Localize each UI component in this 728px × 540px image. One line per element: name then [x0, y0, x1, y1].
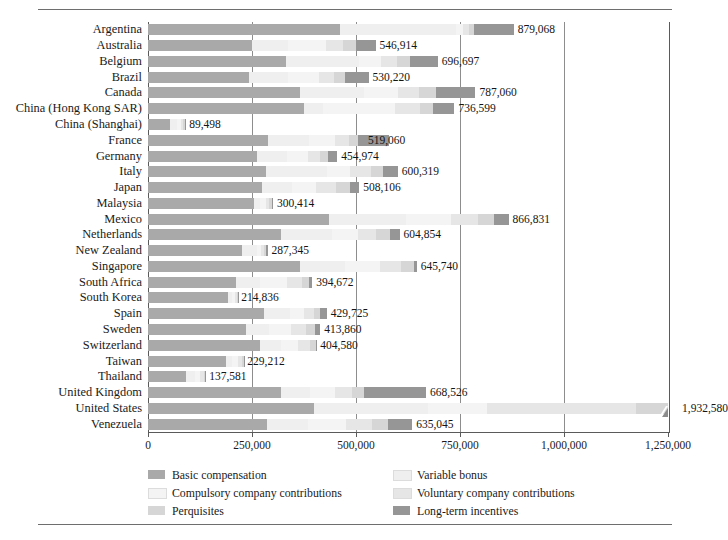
category-label: China (Hong Kong SAR): [0, 103, 142, 114]
legend-label: Perquisites: [172, 504, 224, 519]
category-label: Thailand: [0, 371, 142, 382]
bar-segment: [148, 245, 242, 256]
bar-row: Sweden413,860: [148, 324, 668, 335]
bar-row: United States1,932,580: [148, 403, 668, 414]
bar-segment: [148, 387, 281, 398]
x-tick-label: 1,250,000: [623, 439, 713, 451]
bar-segment: [238, 292, 239, 303]
bar-segment: [281, 387, 310, 398]
bar-segment: [329, 214, 406, 225]
bar-segment: [185, 119, 186, 130]
category-label: Australia: [0, 40, 142, 51]
bar-segment: [433, 103, 454, 114]
bar-segment: [478, 214, 494, 225]
bar-segment: [358, 229, 376, 240]
bar-segment: [148, 182, 262, 193]
bar-row: New Zealand287,345: [148, 245, 668, 256]
bar-segment: [148, 166, 266, 177]
bar-segment: [306, 324, 315, 335]
bar-segment: [323, 103, 395, 114]
bar-segment: [148, 371, 186, 382]
bar-segment: [308, 419, 346, 430]
bar-segment: [287, 277, 302, 288]
category-label: Spain: [0, 308, 142, 319]
bar-row: United Kingdom668,526: [148, 387, 668, 398]
bar-segment: [291, 324, 306, 335]
bar-segment: [242, 245, 257, 256]
legend-label: Long-term incentives: [417, 504, 518, 519]
bar-segment: [272, 198, 273, 209]
x-tick: [252, 432, 253, 437]
bar-segment: [249, 72, 289, 83]
bar-segment: [148, 308, 264, 319]
bar-segment: [148, 214, 329, 225]
bar-segment: [309, 135, 334, 146]
x-tick-label: 500,000: [311, 439, 401, 451]
bar-segment: [148, 40, 252, 51]
x-tick-label: 250,000: [207, 439, 297, 451]
bar-segment: [401, 261, 413, 272]
bar-segment: [340, 24, 456, 35]
bar-segment: [300, 87, 364, 98]
bar-segment: [436, 87, 475, 98]
bar-segment: [371, 166, 383, 177]
bar-segment: [406, 214, 451, 225]
bar-value-label: 300,414: [277, 198, 314, 209]
bar-segment: [335, 387, 352, 398]
bar-segment: [343, 40, 355, 51]
bar-segment: [332, 229, 358, 240]
bar-segment: [410, 56, 438, 67]
bar-segment: [148, 403, 314, 414]
category-label: Sweden: [0, 324, 142, 335]
bar-segment: [290, 308, 304, 319]
bar-segment: [316, 182, 336, 193]
bar-segment: [281, 229, 333, 240]
bar-segment: [260, 340, 281, 351]
bar-row: Mexico866,831: [148, 214, 668, 225]
category-label: France: [0, 135, 142, 146]
bar-segment: [381, 56, 398, 67]
bar-segment: [456, 24, 463, 35]
bar-segment: [420, 103, 433, 114]
legend-swatch: [148, 470, 165, 479]
category-label: New Zealand: [0, 245, 142, 256]
bar-segment: [186, 371, 195, 382]
bar-segment: [148, 419, 267, 430]
legend-label: Variable bonus: [417, 468, 487, 483]
bar-row: France519,060: [148, 135, 668, 146]
category-label: China (Shanghai): [0, 119, 142, 130]
bar-segment: [148, 135, 268, 146]
bottom-divider-rule: [38, 524, 672, 525]
bar-segment: [148, 261, 300, 272]
bar-segment: [314, 403, 429, 414]
category-label: Switzerland: [0, 340, 142, 351]
category-label: Brazil: [0, 72, 142, 83]
bar-segment: [487, 403, 635, 414]
bar-value-label: 866,831: [513, 214, 550, 225]
category-label: Malaysia: [0, 198, 142, 209]
bar-segment: [298, 340, 310, 351]
bar-value-label: 879,068: [518, 24, 555, 35]
bar-segment: [264, 308, 291, 319]
x-tick-label: 750,000: [415, 439, 505, 451]
bar-row: Venezuela635,045: [148, 419, 668, 430]
bar-segment: [390, 229, 400, 240]
bar-value-label: 530,220: [373, 72, 410, 83]
bar-segment: [345, 261, 380, 272]
bar-segment: [260, 277, 287, 288]
legend-swatch: [393, 470, 412, 481]
category-label: Belgium: [0, 56, 142, 67]
bar-value-label: 696,697: [442, 56, 479, 67]
bar-segment: [252, 40, 288, 51]
bar-segment: [148, 24, 340, 35]
legend-swatch: [393, 488, 412, 499]
bar-segment: [148, 151, 257, 162]
bar-segment: [316, 340, 317, 351]
bar-row: Malaysia300,414: [148, 198, 668, 209]
bar-segment: [398, 87, 419, 98]
x-tick-label: 0: [103, 439, 193, 451]
bar-segment: [148, 198, 254, 209]
bar-segment: [309, 277, 312, 288]
bar-segment: [419, 87, 436, 98]
bar-segment: [328, 151, 337, 162]
